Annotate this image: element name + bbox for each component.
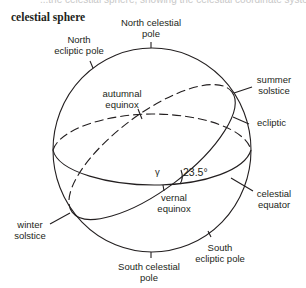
celestial-equator-leader	[231, 178, 253, 191]
label-line: equator	[252, 199, 296, 210]
south-ecliptic-pole-label: South ecliptic pole	[190, 242, 250, 264]
label-line: North celestial	[120, 17, 182, 28]
label-line: vernal	[152, 192, 196, 203]
celestial-sphere-diagram	[0, 0, 306, 288]
sphere-outline	[53, 48, 251, 252]
summer-solstice-leader	[234, 87, 252, 93]
label-line: summer	[253, 74, 295, 85]
label-line: solstice	[10, 230, 50, 241]
label-line: ecliptic pole	[190, 253, 250, 264]
label-line: solstice	[253, 85, 295, 96]
label-line: winter	[10, 219, 50, 230]
gamma-symbol: γ	[155, 166, 160, 177]
winter-solstice-leader	[50, 213, 70, 224]
label-line: South celestial	[116, 261, 182, 272]
label-line: ecliptic pole	[49, 45, 109, 56]
label-line: pole	[116, 272, 182, 283]
label-line: equinox	[152, 203, 196, 214]
north-celestial-pole-label: North celestial pole	[120, 17, 182, 39]
label-line: equinox	[94, 99, 150, 110]
celestial-equator-back	[53, 114, 251, 150]
north-ecliptic-pole-label: North ecliptic pole	[49, 34, 109, 56]
label-line: South	[190, 242, 250, 253]
south-celestial-pole-label: South celestial pole	[116, 261, 182, 283]
winter-solstice-label: winter solstice	[10, 219, 50, 241]
north-ecliptic-pole-tick	[90, 61, 93, 68]
label-line: celestial	[252, 188, 296, 199]
label-line: pole	[120, 28, 182, 39]
angle-label: 23.5°	[183, 167, 208, 178]
ecliptic-label: ecliptic	[257, 117, 286, 128]
summer-solstice-label: summer solstice	[253, 74, 295, 96]
autumnal-equinox-label: autumnal equinox	[94, 88, 150, 110]
vernal-equinox-label: vernal equinox	[152, 192, 196, 214]
label-line: autumnal	[94, 88, 150, 99]
celestial-equator-label: celestial equator	[252, 188, 296, 210]
celestial-equator-front	[53, 150, 251, 185]
label-line: North	[49, 34, 109, 45]
